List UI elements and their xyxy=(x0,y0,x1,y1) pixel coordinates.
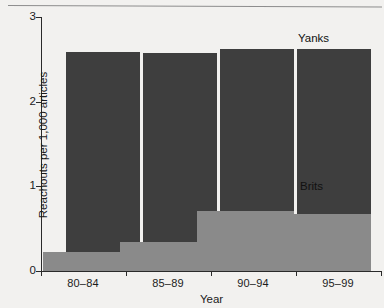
y-axis-title: Reachouts per 1,000 articles xyxy=(37,30,49,260)
plot-area: Yanks Brits 3 2 1 0 80–84 85–89 90–94 95… xyxy=(0,0,384,308)
y-tick-label-0: 0 xyxy=(10,265,36,277)
bar-yanks-80-84 xyxy=(66,52,140,271)
series-label-brits: Brits xyxy=(300,181,323,193)
x-tick-0 xyxy=(41,272,42,276)
bar-chart-figure: Yanks Brits 3 2 1 0 80–84 85–89 90–94 95… xyxy=(0,0,384,308)
y-tick-3 xyxy=(36,17,41,18)
x-tick-label-85-89: 85–89 xyxy=(138,278,198,289)
x-tick-label-90-94: 90–94 xyxy=(223,278,283,289)
x-tick-4 xyxy=(381,272,382,276)
y-tick-label-3: 3 xyxy=(10,11,36,23)
x-tick-3 xyxy=(296,272,297,276)
x-tick-label-80-84: 80–84 xyxy=(53,278,113,289)
x-axis-title: Year xyxy=(41,293,382,305)
x-tick-1 xyxy=(126,272,127,276)
series-label-yanks: Yanks xyxy=(298,33,329,45)
x-tick-2 xyxy=(211,272,212,276)
bar-brits-95-99 xyxy=(274,214,371,271)
y-tick-label-1: 1 xyxy=(10,180,36,192)
x-tick-label-95-99: 95–99 xyxy=(308,278,368,289)
y-tick-label-2: 2 xyxy=(10,96,36,108)
